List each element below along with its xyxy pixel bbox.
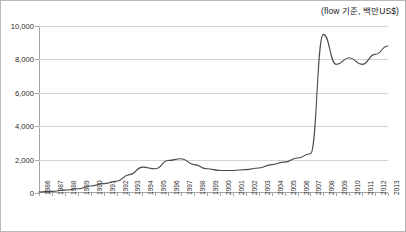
x-axis-tick-mark (181, 193, 182, 196)
x-axis-tick-mark (246, 193, 247, 196)
x-axis-tick-mark (168, 193, 169, 196)
x-axis-tick-mark (117, 193, 118, 196)
x-axis-tick-label: 2013 (393, 180, 400, 195)
chart-figure: (flow 기준, 백만US$) 02,0004,0006,0008,00010… (0, 0, 406, 232)
x-axis-tick-mark (220, 193, 221, 196)
y-axis-tick-label: 6,000 (15, 88, 34, 97)
x-axis-tick-mark (272, 193, 273, 196)
x-axis-tick-mark (104, 193, 105, 196)
chart-unit-caption: (flow 기준, 백만US$) (321, 4, 399, 16)
x-axis-tick-mark (52, 193, 53, 196)
x-axis-tick-mark (336, 193, 337, 196)
x-axis-tick-mark (310, 193, 311, 196)
x-axis-tick-mark (388, 193, 389, 196)
x-axis-tick-mark (78, 193, 79, 196)
x-axis-tick-mark (194, 193, 195, 196)
x-axis-tick-mark (362, 193, 363, 196)
y-axis-tick-label: 10,000 (11, 22, 34, 31)
x-axis-tick-mark (39, 193, 40, 196)
plot-area: 02,0004,0006,0008,00010,000 198619871988… (39, 26, 388, 193)
y-axis-tick-label: 2,000 (15, 155, 34, 164)
x-axis-tick-mark (91, 193, 92, 196)
series-line (39, 26, 388, 193)
x-axis-tick-mark (375, 193, 376, 196)
x-axis-tick-mark (233, 193, 234, 196)
y-axis-tick-label: 8,000 (15, 55, 34, 64)
y-axis-tick-label: 4,000 (15, 122, 34, 131)
x-axis-tick-mark (298, 193, 299, 196)
x-axis-tick-mark (323, 193, 324, 196)
x-axis-tick-mark (65, 193, 66, 196)
x-axis-tick-mark (129, 193, 130, 196)
x-axis-tick-mark (349, 193, 350, 196)
x-axis-tick-mark (207, 193, 208, 196)
y-axis-tick-label: 0 (30, 189, 34, 198)
data-line (39, 34, 388, 192)
x-axis-tick-mark (285, 193, 286, 196)
x-axis-tick-mark (142, 193, 143, 196)
x-axis-tick-mark (259, 193, 260, 196)
x-axis-tick-mark (155, 193, 156, 196)
